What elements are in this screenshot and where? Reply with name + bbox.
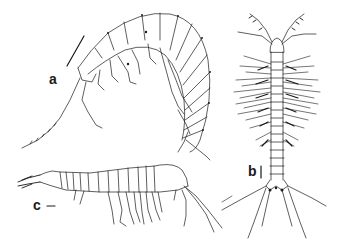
- panel-label-c: c: [33, 198, 41, 212]
- specimen-b-drawing: [222, 14, 326, 238]
- specimen-c-drawing: [18, 165, 232, 232]
- panel-label-a: a: [49, 72, 57, 86]
- scale-bar-a: [67, 36, 84, 66]
- figure-drawings: [0, 0, 337, 245]
- specimen-figure: a b c: [0, 0, 337, 245]
- panel-label-b: b: [248, 164, 257, 178]
